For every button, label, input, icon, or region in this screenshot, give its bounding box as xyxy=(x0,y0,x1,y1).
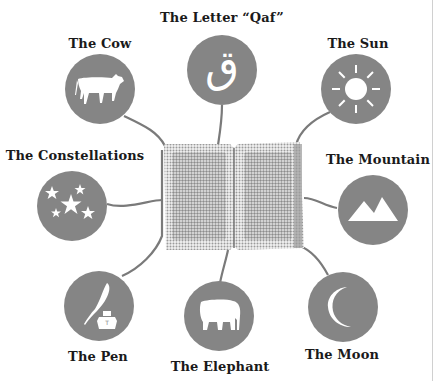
cow-icon xyxy=(74,71,126,107)
svg-text:T: T xyxy=(104,319,109,326)
node-constellations xyxy=(37,171,107,241)
node-elephant xyxy=(184,281,254,351)
node-moon xyxy=(308,272,378,342)
label-pen: The Pen xyxy=(68,349,128,364)
label-moon: The Moon xyxy=(305,347,379,362)
node-pen: T xyxy=(64,271,134,341)
connector-qaf xyxy=(218,105,222,145)
connector-constellations xyxy=(107,200,162,206)
open-book-icon xyxy=(160,140,306,252)
label-cow: The Cow xyxy=(69,36,132,51)
crescent-moon-icon xyxy=(323,285,363,329)
page-edge-divider xyxy=(432,0,433,381)
connector-cow xyxy=(124,116,165,146)
elephant-icon xyxy=(195,298,243,334)
connector-pen xyxy=(122,150,162,276)
connector-elephant xyxy=(220,250,228,283)
diagram-canvas: The Cow The Letter “Qaf” ق The Sun The C xyxy=(0,0,438,381)
node-cow xyxy=(65,54,135,124)
arabic-letter-qaf-icon: ق xyxy=(205,45,239,89)
node-sun xyxy=(321,54,391,124)
label-constellations: The Constellations xyxy=(6,148,144,163)
sun-icon xyxy=(329,62,383,116)
node-mountain xyxy=(338,175,408,245)
quill-ink-icon: T xyxy=(77,281,121,331)
connector-mountain xyxy=(304,198,337,208)
label-elephant: The Elephant xyxy=(171,359,270,374)
stars-icon xyxy=(44,184,100,228)
node-qaf: ق xyxy=(187,35,257,105)
mountain-icon xyxy=(346,195,400,225)
label-sun: The Sun xyxy=(328,36,389,51)
label-qaf: The Letter “Qaf” xyxy=(160,10,284,25)
label-mountain: The Mountain xyxy=(326,152,430,167)
